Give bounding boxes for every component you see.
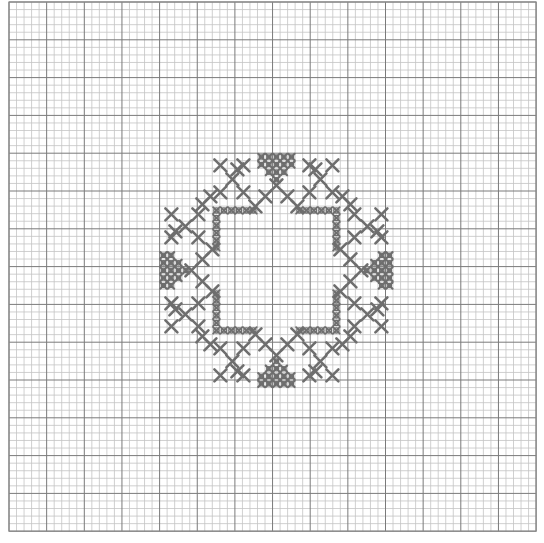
canvas-background bbox=[0, 0, 544, 543]
cross-stitch-chart bbox=[0, 0, 544, 543]
